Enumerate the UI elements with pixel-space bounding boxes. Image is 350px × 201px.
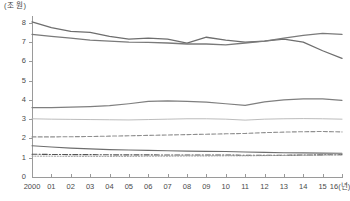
y-tick-label: 1 [12,154,26,162]
y-tick-label: 0 [12,173,26,181]
series-canvas [32,17,342,177]
data-series-line [32,22,342,59]
y-tick-label: 6 [12,57,26,65]
y-tick-label: 5 [12,77,26,85]
plot-area [32,17,342,177]
x-tick-label: 11 [241,182,249,191]
x-tick-label: 06 [144,182,152,191]
x-tick-label: 16(년) [330,182,350,191]
x-tick-label: 03 [86,182,94,191]
x-tick-label: 12 [260,182,268,191]
x-tick-label: 04 [105,182,113,191]
y-tick-label: 8 [12,19,26,27]
x-tick-label: 13 [280,182,288,191]
x-tick-label: 10 [222,182,230,191]
y-tick-label: 2 [12,134,26,142]
x-tick-mark [342,174,343,177]
x-tick-label: 05 [125,182,133,191]
x-axis-line [32,177,343,178]
x-tick-label: 02 [67,182,75,191]
line-chart: (조 원) 012345678 200001020304050607080910… [0,0,350,201]
x-tick-label: 09 [202,182,210,191]
data-series-line [32,132,342,137]
data-series-line [32,99,342,108]
x-tick-label: 15 [318,182,326,191]
x-tick-label: 2000 [24,182,41,191]
data-series-line [32,146,342,154]
y-tick-label: 3 [12,115,26,123]
x-tick-label: 01 [47,182,55,191]
y-tick-label: 7 [12,38,26,46]
x-tick-label: 08 [183,182,191,191]
y-tick-label: 4 [12,96,26,104]
y-axis-unit-label: (조 원) [4,1,26,10]
x-tick-label: 14 [299,182,307,191]
data-series-line [32,119,342,121]
x-tick-label: 07 [163,182,171,191]
